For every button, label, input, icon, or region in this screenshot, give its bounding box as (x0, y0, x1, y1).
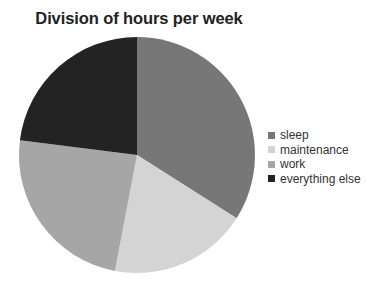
legend-item-work: work (268, 157, 361, 172)
legend-item-everything-else: everything else (268, 172, 361, 187)
legend-swatch-maintenance (268, 146, 275, 153)
legend-swatch-work (268, 161, 275, 168)
legend-label: maintenance (280, 143, 349, 157)
legend-swatch-sleep (268, 132, 275, 139)
legend-swatch-everything-else (268, 175, 275, 182)
legend-item-maintenance: maintenance (268, 143, 361, 158)
legend-item-sleep: sleep (268, 128, 361, 143)
legend-label: everything else (280, 172, 361, 186)
legend-label: work (280, 157, 305, 171)
legend: sleep maintenance work everything else (268, 128, 361, 186)
legend-label: sleep (280, 128, 309, 142)
slice-everything-else (20, 37, 137, 155)
